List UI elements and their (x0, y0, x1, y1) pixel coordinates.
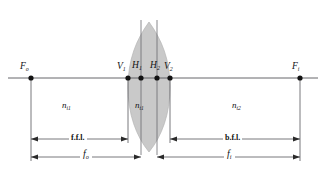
label-focal-length-image: fi (224, 149, 235, 160)
ffl-arrowhead-left (31, 137, 38, 142)
label-point-Fi: Fi (292, 62, 299, 73)
label-front-focal-length: f.f.l. (69, 134, 87, 142)
ffl-arrowhead-right (121, 137, 128, 142)
biconvex-lens-shape (128, 22, 170, 152)
diagram-canvas (0, 0, 325, 172)
bfl-arrowhead-left (170, 137, 177, 142)
label-focal-length-object: fo (80, 149, 92, 160)
dot-H2 (154, 75, 159, 80)
label-point-H2: H2 (150, 61, 160, 72)
dimension-row-focal-lengths (31, 155, 300, 160)
dot-V2 (167, 75, 172, 80)
optical-diagram-figure: Fo V1 H1 H2 V2 Fi ni1 nt1 nt2 f.f.l. b.f… (0, 0, 325, 172)
label-refractive-index-t2: nt2 (232, 101, 241, 111)
label-point-V2: V2 (164, 62, 173, 73)
label-refractive-index-t1: nt1 (135, 101, 144, 111)
fi-arrowhead-left (157, 155, 164, 160)
fo-arrowhead-right (134, 155, 141, 160)
fi-arrowhead-right (293, 155, 300, 160)
bfl-arrowhead-right (293, 137, 300, 142)
label-point-V1: V1 (117, 62, 126, 73)
dot-Fi (297, 75, 302, 80)
dot-V1 (125, 75, 130, 80)
lens-body-group (128, 22, 170, 152)
label-refractive-index-i1: ni1 (62, 101, 71, 111)
fo-arrowhead-left (31, 155, 38, 160)
dot-H1 (138, 75, 143, 80)
label-point-Fo: Fo (20, 62, 29, 73)
label-point-H1: H1 (132, 61, 142, 72)
label-back-focal-length: b.f.l. (223, 134, 242, 142)
dot-Fo (28, 75, 33, 80)
